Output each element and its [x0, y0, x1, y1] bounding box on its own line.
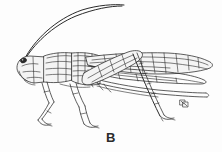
hind-tarsus	[160, 115, 175, 121]
abdomen	[88, 76, 209, 97]
foreleg	[38, 82, 54, 126]
midleg	[70, 83, 99, 128]
figure-container: B	[0, 0, 222, 152]
figure-caption-label: B	[0, 131, 222, 145]
inset-detail-icon	[180, 100, 188, 107]
antenna-upper	[24, 5, 124, 60]
pronotum	[44, 53, 72, 83]
